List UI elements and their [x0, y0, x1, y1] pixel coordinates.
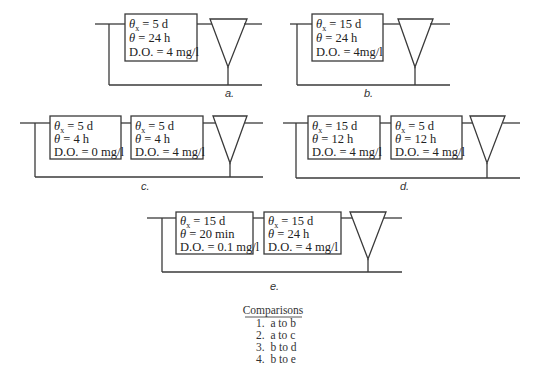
clarifier-icon — [398, 19, 433, 67]
clarifier-icon — [213, 116, 247, 163]
theta-text: θ = 24 h — [129, 31, 171, 45]
do-text: D.O. = 4 mg/l — [268, 240, 338, 254]
diagram-label-b: b. — [364, 87, 373, 99]
diagram-label-a: a. — [225, 87, 234, 99]
do-text: D.O. = 4 mg/l — [129, 45, 199, 59]
do-text: D.O. = 4 mg/l — [312, 145, 382, 159]
theta-text: θ = 20 min — [180, 227, 235, 241]
clarifier-icon — [470, 116, 505, 163]
diagram-label-e: e. — [270, 280, 279, 292]
theta-text: θ = 24 h — [316, 31, 358, 45]
comparisons-title: Comparisons — [243, 304, 304, 317]
diagram-e: θx = 15 d θ = 20 min D.O. = 0.1 mg/l θx … — [147, 212, 402, 292]
comparisons-list: Comparisons 1. a to b 2. a to c 3. b to … — [243, 304, 304, 365]
diagram-b: θx = 15 d θ = 24 h D.O. = 4mg/l b. — [290, 14, 450, 99]
do-text: D.O. = 0 mg/l — [54, 145, 124, 159]
do-text: D.O. = 4 mg/l — [135, 145, 205, 159]
diagram-c: θx = 5 d θ = 4 h D.O. = 0 mg/l θx = 5 d … — [20, 116, 263, 192]
do-text: D.O. = 4mg/l — [316, 45, 383, 59]
theta-text: θ = 4 h — [135, 132, 171, 146]
theta-text: θ = 24 h — [268, 227, 310, 241]
theta-text: θ = 4 h — [54, 132, 90, 146]
clarifier-icon — [210, 19, 247, 67]
theta-text: θ = 12 h — [395, 132, 437, 146]
diagram-a: θx = 5 d θ = 24 h D.O. = 4 mg/l a. — [95, 14, 262, 99]
do-text: D.O. = 0.1 mg/l — [180, 240, 260, 254]
diagram-label-c: c. — [141, 180, 150, 192]
diagram-d: θx = 15 d θ = 12 h D.O. = 4 mg/l θx = 5 … — [283, 116, 520, 192]
clarifier-icon — [350, 212, 386, 259]
theta-text: θ = 12 h — [312, 132, 354, 146]
diagram-label-d: d. — [400, 180, 409, 192]
comparison-item: 3. b to d — [256, 341, 297, 353]
do-text: D.O. = 4 mg/l — [395, 145, 465, 159]
comparison-item: 4. b to e — [256, 353, 296, 365]
comparison-item: 1. a to b — [256, 317, 296, 329]
comparison-item: 2. a to c — [256, 329, 295, 341]
activated-sludge-configurations-figure: θx = 5 d θ = 24 h D.O. = 4 mg/l a. θx = … — [0, 0, 546, 375]
